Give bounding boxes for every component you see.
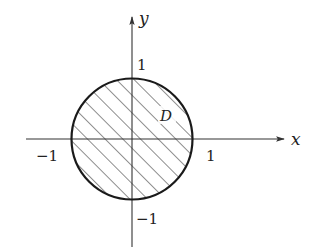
y-axis-label: y xyxy=(138,8,149,28)
tick-label-x-neg: −1 xyxy=(36,147,58,165)
tick-label-y-neg: −1 xyxy=(136,210,158,228)
region-label-d: D xyxy=(159,107,172,125)
coordinate-diagram: x y −1 1 1 −1 D xyxy=(0,0,331,252)
x-axis-label: x xyxy=(291,129,301,149)
tick-label-x-pos: 1 xyxy=(206,147,216,165)
tick-label-y-pos: 1 xyxy=(137,56,147,74)
